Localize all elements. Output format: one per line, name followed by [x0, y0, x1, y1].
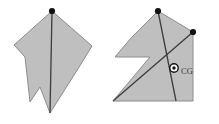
cg-label: CG — [181, 66, 193, 76]
suspension-dot-top-left-icon — [49, 8, 55, 14]
suspension-dot-top-right-icon — [155, 8, 161, 14]
figure-container: CG — [0, 0, 219, 124]
suspension-dot-side-right-icon — [190, 29, 196, 35]
cg-diagram: CG — [0, 0, 219, 124]
center-of-gravity-marker — [170, 64, 178, 72]
cg-core-dot-icon — [172, 66, 175, 69]
